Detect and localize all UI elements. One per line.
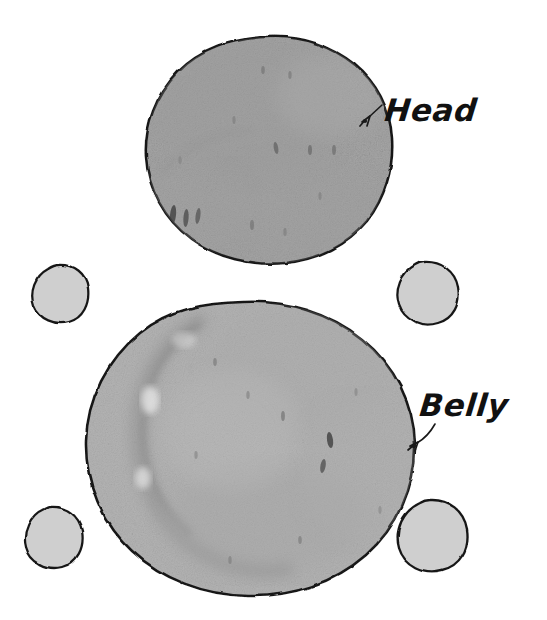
small-blob-top-right (397, 262, 458, 325)
head-shape-group (130, 37, 392, 265)
drawing-canvas: Head Belly (0, 0, 547, 620)
small-blob-bottom-right (398, 500, 468, 571)
belly-label: Belly (418, 387, 510, 423)
belly-shape-group (86, 302, 420, 596)
head-label: Head (383, 92, 479, 128)
small-blob-top-left (32, 265, 88, 323)
small-blob-bottom-left (25, 507, 83, 568)
